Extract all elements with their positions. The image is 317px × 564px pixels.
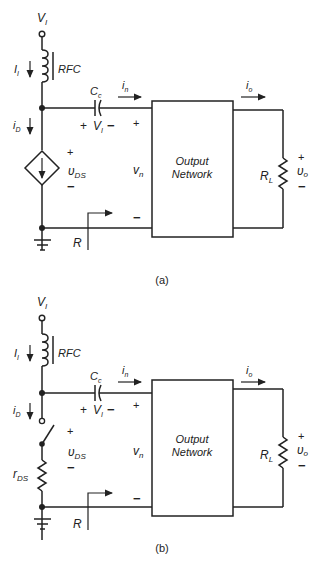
cap-voltage-label: VI: [93, 403, 103, 418]
output-network-label-line2: Network: [172, 168, 213, 180]
switch-resistor-icon: [38, 460, 46, 491]
load-resistor-icon: [279, 437, 287, 468]
device-voltage-plus: +: [67, 146, 73, 158]
load-label: RL: [260, 169, 273, 185]
switch-terminal-icon: [39, 418, 44, 423]
load-resistor-icon: [279, 158, 287, 189]
input-voltage-plus: +: [133, 399, 139, 411]
supply-label: VI: [37, 11, 48, 27]
output-current-label: io: [246, 79, 252, 93]
input-current-label: in: [122, 364, 128, 378]
output-network-label-line1: Output: [175, 433, 209, 445]
drain-current-label: iD: [13, 404, 21, 418]
drain-current-label: iD: [13, 119, 21, 133]
panel-b: VI RFC II Cc in iD + VI − + rDS + υDS: [13, 295, 309, 554]
device-voltage-plus: +: [67, 425, 73, 437]
cap-voltage-plus: +: [80, 119, 87, 133]
device-voltage-minus: −: [67, 179, 75, 194]
output-current-label: io: [246, 364, 252, 378]
supply-terminal-icon: [39, 315, 45, 321]
cap-voltage-minus: −: [107, 402, 115, 417]
input-resistance-label: R: [73, 517, 82, 531]
output-voltage-label: υo: [297, 443, 309, 458]
input-resistance-arrow-icon: [88, 493, 112, 530]
switch-blade-icon: [42, 425, 54, 444]
coupling-cap-label: Cc: [90, 85, 102, 99]
supply-terminal-icon: [39, 31, 45, 37]
panel-a: VI RFC II Cc in iD + VI − +: [13, 11, 309, 286]
switch-resistance-label: rDS: [13, 467, 29, 483]
input-voltage-label: vn: [133, 163, 144, 179]
output-network-label-line1: Output: [175, 155, 209, 167]
coupling-cap-label: Cc: [90, 370, 102, 384]
device-voltage-label: υDS: [68, 164, 86, 180]
output-voltage-plus: +: [298, 151, 304, 163]
rfc-label: RFC: [58, 63, 81, 75]
input-resistance-label: R: [73, 236, 82, 250]
supply-current-label: II: [14, 63, 19, 77]
inductor-icon: [42, 50, 48, 82]
input-voltage-plus: +: [133, 117, 139, 129]
supply-current-label: II: [14, 347, 19, 361]
circuit-diagram: VI RFC II Cc in iD + VI − +: [0, 0, 317, 564]
caption-b: (b): [155, 542, 168, 554]
input-voltage-label: vn: [133, 444, 144, 460]
caption-a: (a): [155, 274, 168, 286]
output-voltage-minus: −: [298, 458, 306, 473]
output-voltage-label: υo: [297, 164, 309, 179]
input-current-label: in: [122, 79, 128, 93]
cap-voltage-label: VI: [93, 119, 103, 134]
cap-voltage-plus: +: [80, 403, 87, 417]
device-voltage-minus: −: [67, 460, 75, 475]
output-voltage-plus: +: [298, 430, 304, 442]
input-voltage-minus: −: [133, 210, 141, 225]
device-voltage-label: υDS: [68, 445, 86, 461]
input-resistance-arrow-icon: [88, 213, 112, 250]
output-network-label-line2: Network: [172, 446, 213, 458]
output-voltage-minus: −: [298, 179, 306, 194]
rfc-label: RFC: [58, 347, 81, 359]
load-label: RL: [260, 448, 273, 464]
cap-voltage-minus: −: [107, 118, 115, 133]
input-voltage-minus: −: [133, 491, 141, 506]
inductor-icon: [42, 334, 48, 366]
supply-label: VI: [37, 295, 48, 311]
